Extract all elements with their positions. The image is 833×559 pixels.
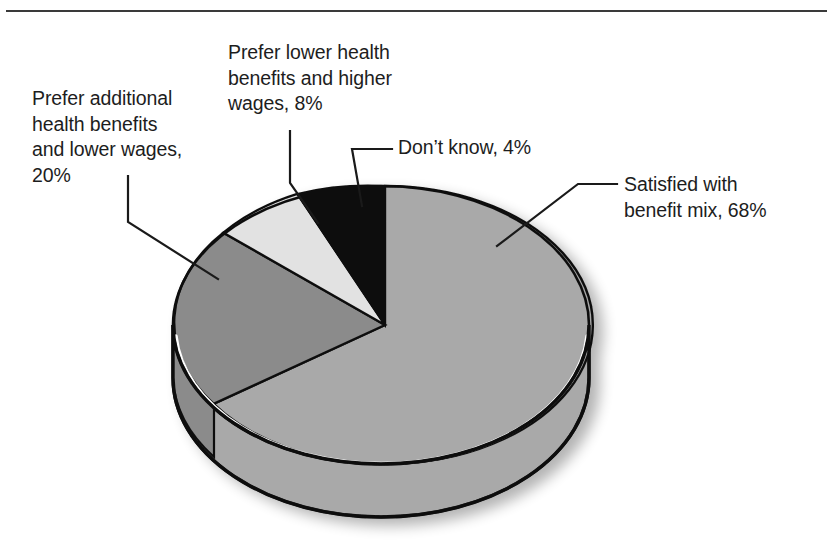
pie-body: Satisfied with benefit mix, 68% Prefer a…	[173, 186, 593, 517]
label-prefer-additional: Prefer additional health benefits and lo…	[32, 86, 242, 188]
label-satisfied: Satisfied with benefit mix, 68%	[624, 172, 833, 223]
label-dont-know: Don’t know, 4%	[398, 135, 628, 161]
label-prefer-lower: Prefer lower health benefits and higher …	[228, 40, 428, 117]
figure-container: Satisfied with benefit mix, 68% Prefer a…	[0, 0, 833, 559]
